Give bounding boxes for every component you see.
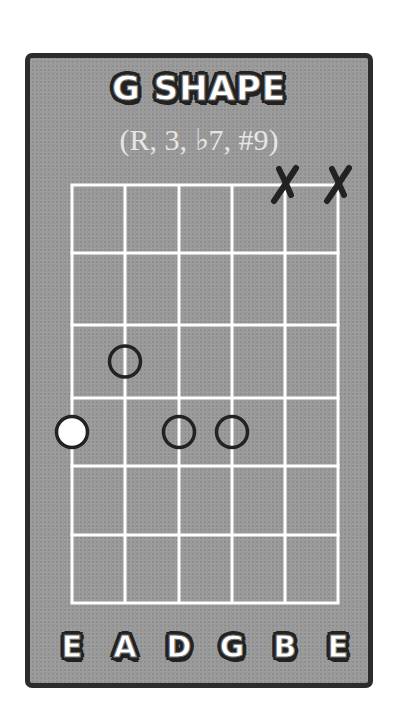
string-label-g: G xyxy=(212,624,252,670)
string-label-d: D xyxy=(159,624,199,670)
string-labels: E A D G B E xyxy=(30,624,368,670)
chord-shape-card: G SHAPE (R, 3, ♭7, #9) E A D G B E xyxy=(25,53,373,688)
root-note-dot-icon xyxy=(57,417,88,448)
string-label-low-e: E xyxy=(52,624,92,670)
string-label-b: B xyxy=(265,624,305,670)
string-label-a: A xyxy=(105,624,145,670)
fretboard-diagram xyxy=(30,58,368,683)
fret-grid xyxy=(71,185,340,603)
string-label-high-e: E xyxy=(318,624,358,670)
